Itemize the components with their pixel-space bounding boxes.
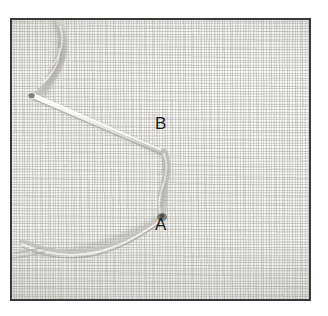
thread-loop-bottom-left — [13, 218, 161, 258]
point-label-b: B — [155, 115, 167, 132]
thread-shadows — [32, 22, 166, 252]
photograph-plate: B A — [10, 18, 311, 301]
embroidery-stitch-figure: B A — [0, 0, 328, 316]
point-label-a: A — [155, 216, 167, 233]
needle-shaft — [28, 93, 165, 156]
twisted-thread-top-left — [33, 20, 64, 97]
thread-illustration-layer — [12, 20, 309, 299]
